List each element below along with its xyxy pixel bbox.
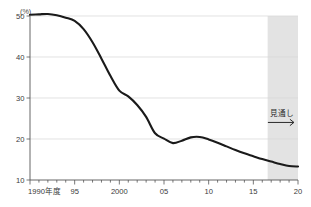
x-tick-label: 05	[160, 187, 168, 196]
x-tick-label: 95	[70, 187, 78, 196]
x-tick-label: 2000	[111, 187, 128, 196]
x-tick-label: 15	[249, 187, 257, 196]
forecast-annotation-label: 見通し	[270, 108, 294, 118]
x-tick-label: 10	[204, 187, 212, 196]
y-tick-label: 20	[16, 135, 24, 144]
y-tick-label: 10	[16, 176, 24, 185]
x-tick-label: 1990年度	[28, 186, 61, 196]
x-tick-label: 20	[294, 187, 302, 196]
chart-container: 1020304050 1990年度95200005101520 (%) 見通し	[0, 0, 311, 207]
y-tick-label: 30	[16, 94, 24, 103]
chart-background	[0, 0, 311, 207]
y-tick-label: 40	[16, 53, 24, 62]
line-chart: 1020304050 1990年度95200005101520 (%) 見通し	[0, 0, 311, 207]
